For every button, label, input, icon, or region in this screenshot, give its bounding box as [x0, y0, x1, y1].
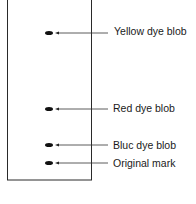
- red-arrowhead-icon: [55, 108, 59, 111]
- yellow-arrowhead-icon: [55, 32, 59, 35]
- blue-dye-label: Bluc dye blob: [113, 139, 176, 151]
- original-mark-blob: [45, 161, 53, 165]
- paper-strip: [8, 0, 92, 180]
- yellow-blob-group: [45, 31, 108, 35]
- blue-arrowhead-icon: [55, 144, 59, 147]
- original-arrowhead-icon: [55, 162, 59, 165]
- original-mark-label: Original mark: [113, 157, 175, 169]
- yellow-dye-label: Yellow dye blob: [114, 25, 187, 37]
- blue-blob-group: [45, 143, 108, 147]
- original-mark-group: [45, 161, 108, 165]
- red-dye-blob: [45, 107, 53, 111]
- red-blob-group: [45, 107, 108, 111]
- red-dye-label: Red dye blob: [113, 102, 175, 114]
- yellow-dye-blob: [45, 31, 53, 35]
- blue-dye-blob: [45, 143, 53, 147]
